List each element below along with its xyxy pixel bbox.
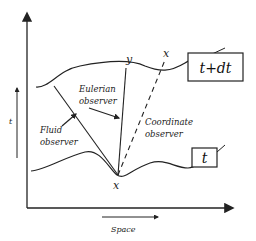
spacetime-diagram: t Space t+dt t x y x Eulerian observer F… xyxy=(0,0,256,241)
svg-text:Eulerian: Eulerian xyxy=(78,84,116,94)
eulerian-pointer-arrow xyxy=(89,108,119,118)
space-indicator: Space xyxy=(102,217,158,234)
eulerian-observer-label: Eulerian observer xyxy=(78,84,118,106)
fluid-observer-label: Fluid observer xyxy=(39,125,79,147)
axes xyxy=(27,14,232,208)
point-x-coordinate: x xyxy=(163,47,170,60)
svg-text:Fluid: Fluid xyxy=(39,125,63,135)
coordinate-observer-label: Coordinate observer xyxy=(145,117,193,139)
upper-hypersurface xyxy=(36,59,205,87)
lower-surface-tail xyxy=(217,145,225,152)
lower-surface-label-box: t xyxy=(192,148,217,167)
point-y: y xyxy=(125,53,133,66)
svg-text:t: t xyxy=(202,150,208,166)
svg-text:t+dt: t+dt xyxy=(200,60,232,76)
svg-text:Coordinate: Coordinate xyxy=(145,117,193,127)
lower-hypersurface xyxy=(31,152,198,177)
fluid-pointer-arrow xyxy=(62,114,76,126)
eulerian-observer-worldline xyxy=(118,68,126,175)
svg-text:observer: observer xyxy=(145,129,184,139)
time-indicator: t xyxy=(9,88,17,158)
point-x-origin: x xyxy=(113,179,120,192)
upper-surface-label-box: t+dt xyxy=(188,53,243,81)
svg-text:observer: observer xyxy=(40,137,79,147)
space-label: Space xyxy=(111,225,136,234)
time-label: t xyxy=(9,117,13,126)
svg-text:observer: observer xyxy=(79,96,118,106)
